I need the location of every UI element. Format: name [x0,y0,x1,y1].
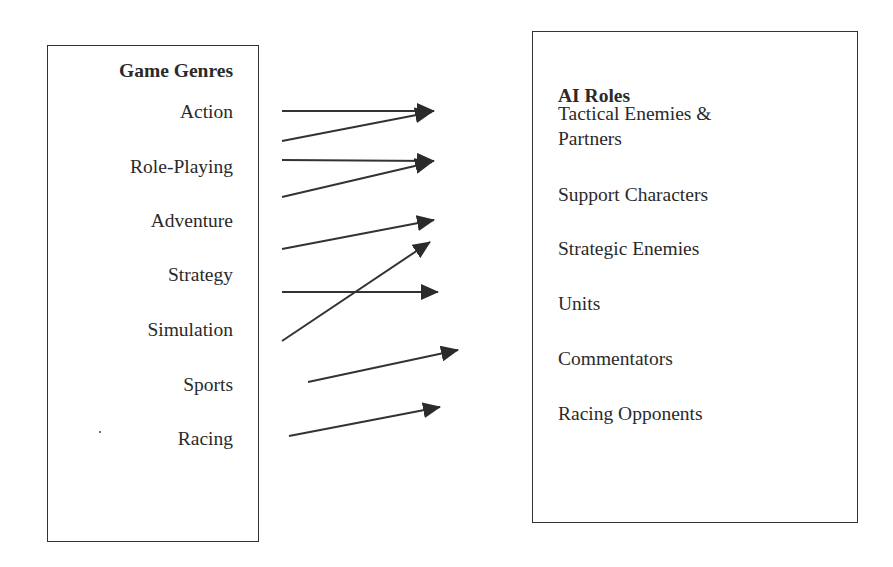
role-tactical-enemies-partners-line2: Partners [558,128,622,150]
role-racing-opponents: Racing Opponents [558,403,703,425]
role-units: Units [558,293,600,315]
stray-dot [99,431,101,433]
arrow-roleplaying-to-support [282,160,434,161]
genre-strategy: Strategy [168,264,233,286]
genre-action: Action [180,101,233,123]
arrow-adventure-to-support [282,162,432,197]
genre-adventure: Adventure [151,210,233,232]
arrow-roleplaying-to-tactical [282,112,432,141]
arrow-sports-to-commentators [308,350,458,382]
arrow-racing-to-racing-opponents [289,407,440,436]
genre-racing: Racing [178,428,233,450]
arrow-adventure-to-strategic [282,220,434,249]
role-support-characters: Support Characters [558,184,708,206]
genre-sports: Sports [183,374,233,396]
game-genres-title: Game Genres [119,60,233,82]
genre-role-playing: Role-Playing [130,156,233,178]
arrow-simulation-to-strategic [282,242,430,341]
role-commentators: Commentators [558,348,673,370]
role-strategic-enemies: Strategic Enemies [558,238,699,260]
genre-simulation: Simulation [147,319,233,341]
role-tactical-enemies-partners: Tactical Enemies & [558,103,712,125]
